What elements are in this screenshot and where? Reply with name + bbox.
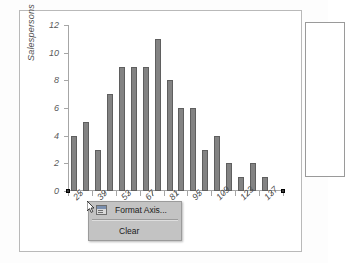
menu-item-clear-label: Clear xyxy=(119,226,139,236)
y-tick-label: 2 xyxy=(54,158,59,168)
format-axis-icon xyxy=(96,205,107,215)
x-tick-label[interactable]: 67 xyxy=(143,188,157,202)
y-tick-label: 4 xyxy=(54,131,59,141)
bar[interactable] xyxy=(178,108,184,191)
bar-series[interactable] xyxy=(68,25,283,191)
bar[interactable] xyxy=(95,150,101,192)
y-tick-label: 8 xyxy=(54,75,59,85)
x-tick-label[interactable]: 25 xyxy=(71,188,85,202)
side-panel xyxy=(305,22,345,177)
y-tick-label: 12 xyxy=(49,20,59,30)
bar[interactable] xyxy=(71,136,77,191)
y-tick-label: 10 xyxy=(49,48,59,58)
x-tick-label[interactable]: 53 xyxy=(119,188,133,202)
bar[interactable] xyxy=(119,67,125,192)
bar[interactable] xyxy=(167,80,173,191)
y-tick-label: 0 xyxy=(54,186,59,196)
bar[interactable] xyxy=(202,150,208,192)
x-tick-label[interactable]: 95 xyxy=(190,188,204,202)
x-tick-label[interactable]: 81 xyxy=(167,188,181,202)
bar[interactable] xyxy=(83,122,89,191)
plot-area[interactable]: 024681012 xyxy=(68,25,283,191)
menu-item-format-axis[interactable]: Format Axis... xyxy=(89,202,181,218)
context-menu[interactable]: Format Axis... Clear xyxy=(88,201,182,241)
menu-item-format-axis-label: Format Axis... xyxy=(115,205,167,215)
bar[interactable] xyxy=(214,136,220,191)
menu-item-clear[interactable]: Clear xyxy=(89,222,181,240)
x-tick-label[interactable]: 39 xyxy=(95,188,109,202)
bar[interactable] xyxy=(155,39,161,191)
bar[interactable] xyxy=(131,67,137,192)
bar[interactable] xyxy=(190,108,196,191)
bar[interactable] xyxy=(107,94,113,191)
bar[interactable] xyxy=(143,67,149,192)
menu-separator xyxy=(92,219,178,221)
y-axis-title[interactable]: Salespersons xyxy=(26,4,36,61)
y-tick-label: 6 xyxy=(54,103,59,113)
